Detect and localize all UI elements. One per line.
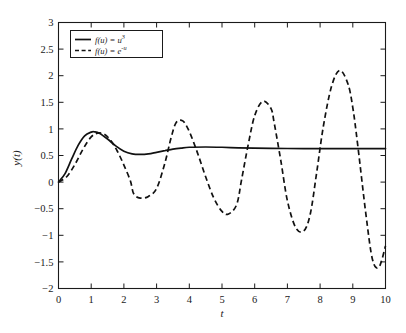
x-tick-label: 2 [121,294,126,305]
y-tick-label: 1 [48,124,53,135]
y-tick-label: 3 [48,17,53,28]
y-tick-label: 0.5 [40,150,53,161]
legend-label-0-main: f(u) = u [95,35,122,45]
x-axis-tick-labels: 012345678910 [56,294,391,305]
series-line-dashed [59,70,386,268]
x-tick-label: 7 [285,294,290,305]
x-tick-label: 4 [187,294,193,305]
y-axis-title: y(t) [10,150,23,167]
x-tick-label: 0 [56,294,61,305]
legend-label-1-exponent: -u [121,44,126,51]
x-axis-ticks [59,23,386,289]
series-line-solid [59,132,386,182]
x-tick-label: 1 [89,294,94,305]
x-tick-label: 3 [154,294,159,305]
legend-label-0: f(u) = u3 [95,33,125,44]
y-axis-ticks [59,23,386,289]
x-tick-label: 10 [380,294,391,305]
x-tick-label: 6 [252,294,257,305]
x-tick-label: 8 [317,294,322,305]
y-tick-label: 2 [48,70,53,81]
y-tick-label: 0 [48,177,53,188]
x-axis-title: t [220,307,224,319]
y-tick-label: 1.5 [40,97,53,108]
legend: f(u) = u3 f(u) = e-u [71,31,163,58]
y-axis-tick-labels: −2−1.5−1−0.500.511.522.53 [34,17,53,294]
legend-label-0-exponent: 3 [121,33,125,40]
y-tick-label: −2 [42,283,53,294]
y-tick-label: −1 [42,230,53,241]
y-tick-label: −1.5 [34,257,53,268]
chart-svg: −2−1.5−1−0.500.511.522.53 012345678910 t… [0,0,406,333]
plot-frame [59,23,386,289]
y-tick-label: −0.5 [34,203,53,214]
y-tick-label: 2.5 [40,44,53,55]
figure-container: −2−1.5−1−0.500.511.522.53 012345678910 t… [0,0,406,333]
x-tick-label: 9 [350,294,355,305]
x-tick-label: 5 [219,294,224,305]
legend-label-1-main: f(u) = e [95,46,122,56]
